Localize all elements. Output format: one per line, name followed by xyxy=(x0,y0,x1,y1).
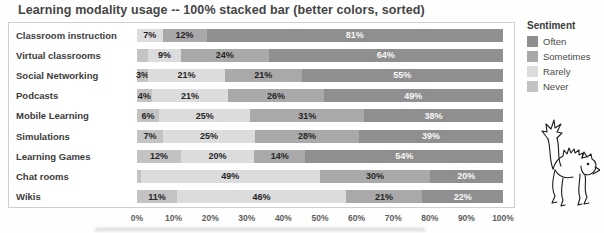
segment-rarely: 7% xyxy=(137,29,163,42)
legend-swatch xyxy=(527,36,538,47)
segment-sometimes: 12% xyxy=(163,29,207,42)
legend: Sentiment OftenSometimesRarelyNever xyxy=(527,20,591,94)
x-axis-tick-label: 100% xyxy=(492,213,514,223)
x-axis: 0%10%20%30%40%50%60%70%80%90%100% xyxy=(137,213,503,225)
scared-cat-doodle-icon xyxy=(536,116,600,218)
segment-rarely: 9% xyxy=(148,49,181,62)
legend-label: Often xyxy=(543,36,566,47)
segment-sometimes: 30% xyxy=(320,170,430,183)
category-label: Podcasts xyxy=(9,90,137,101)
bar-track: 49%30%20% xyxy=(137,170,503,183)
legend-label: Never xyxy=(543,81,568,92)
segment-often: 22% xyxy=(422,190,503,203)
bar-row: Simulations7%25%28%39% xyxy=(9,126,514,146)
bar-row: Classroom instruction7%12%81% xyxy=(9,25,514,45)
segment-rarely: 21% xyxy=(148,69,225,82)
segment-sometimes: 26% xyxy=(228,89,323,102)
chart-title: Learning modality usage -- 100% stacked … xyxy=(18,3,425,17)
bar-track: 3%21%21%55% xyxy=(137,69,503,82)
plot-area: Classroom instruction7%12%81%Virtual cla… xyxy=(8,22,515,208)
category-label: Wikis xyxy=(9,191,137,202)
legend-title: Sentiment xyxy=(527,20,591,31)
legend-label: Sometimes xyxy=(543,51,591,62)
bar-row: Mobile Learning6%25%31%38% xyxy=(9,106,514,126)
x-axis-tick-label: 90% xyxy=(458,213,475,223)
x-axis-tick-label: 30% xyxy=(238,213,255,223)
segment-often: 81% xyxy=(207,29,503,42)
segment-often: 49% xyxy=(324,89,503,102)
bar-row: Wikis11%46%21%22% xyxy=(9,187,514,207)
segment-never: 4% xyxy=(137,89,152,102)
bar-rows-container: Classroom instruction7%12%81%Virtual cla… xyxy=(9,25,514,207)
chart-screenshot: Learning modality usage -- 100% stacked … xyxy=(0,0,604,233)
x-axis-tick-label: 10% xyxy=(165,213,182,223)
x-axis-tick-label: 80% xyxy=(421,213,438,223)
legend-swatch xyxy=(527,51,538,62)
category-label: Mobile Learning xyxy=(9,110,137,121)
bar-track: 11%46%21%22% xyxy=(137,190,503,203)
bar-row: Social Networking3%21%21%55% xyxy=(9,65,514,85)
legend-label: Rarely xyxy=(543,66,570,77)
legend-item: Often xyxy=(527,34,591,49)
segment-rarely: 20% xyxy=(181,150,254,163)
segment-never: 6% xyxy=(137,109,159,122)
x-axis-tick-label: 20% xyxy=(202,213,219,223)
segment-often: 54% xyxy=(305,150,503,163)
bar-track: 7%25%28%39% xyxy=(137,130,503,143)
category-label: Classroom instruction xyxy=(9,30,137,41)
bar-track: 6%25%31%38% xyxy=(137,109,503,122)
scan-artifact xyxy=(95,228,425,231)
segment-rarely: 25% xyxy=(163,130,255,143)
x-axis-tick-label: 70% xyxy=(385,213,402,223)
bar-row: Chat rooms49%30%20% xyxy=(9,166,514,186)
bar-row: Virtual classrooms9%24%64% xyxy=(9,45,514,65)
segment-often: 55% xyxy=(302,69,503,82)
legend-item: Sometimes xyxy=(527,49,591,64)
legend-swatch xyxy=(527,81,538,92)
category-label: Chat rooms xyxy=(9,171,137,182)
segment-often: 38% xyxy=(364,109,503,122)
legend-items: OftenSometimesRarelyNever xyxy=(527,34,591,94)
bar-track: 9%24%64% xyxy=(137,49,503,62)
segment-never: 3% xyxy=(137,69,148,82)
x-axis-tick-label: 0% xyxy=(131,213,143,223)
segment-sometimes: 28% xyxy=(255,130,359,143)
segment-sometimes: 21% xyxy=(346,190,423,203)
segment-never: 7% xyxy=(137,130,163,143)
bar-row: Podcasts4%21%26%49% xyxy=(9,86,514,106)
x-axis-tick-label: 60% xyxy=(348,213,365,223)
category-label: Learning Games xyxy=(9,151,137,162)
bar-track: 7%12%81% xyxy=(137,29,503,42)
legend-item: Never xyxy=(527,79,591,94)
legend-swatch xyxy=(527,66,538,77)
category-label: Simulations xyxy=(9,131,137,142)
segment-rarely: 46% xyxy=(177,190,345,203)
segment-sometimes: 14% xyxy=(254,150,305,163)
segment-sometimes: 24% xyxy=(181,49,269,62)
bar-track: 4%21%26%49% xyxy=(137,89,503,102)
bar-row: Learning Games12%20%14%54% xyxy=(9,146,514,166)
segment-often: 20% xyxy=(430,170,503,183)
category-label: Virtual classrooms xyxy=(9,50,137,61)
x-axis-tick-label: 50% xyxy=(311,213,328,223)
legend-item: Rarely xyxy=(527,64,591,79)
segment-never: 11% xyxy=(137,190,177,203)
segment-never xyxy=(137,49,148,62)
segment-often: 39% xyxy=(359,130,503,143)
category-label: Social Networking xyxy=(9,70,137,81)
segment-never: 12% xyxy=(137,150,181,163)
segment-rarely: 25% xyxy=(159,109,251,122)
segment-rarely: 49% xyxy=(141,170,320,183)
segment-sometimes: 31% xyxy=(250,109,363,122)
bar-track: 12%20%14%54% xyxy=(137,150,503,163)
segment-rarely: 21% xyxy=(152,89,229,102)
x-axis-tick-label: 40% xyxy=(275,213,292,223)
segment-sometimes: 21% xyxy=(225,69,302,82)
segment-often: 64% xyxy=(269,49,503,62)
